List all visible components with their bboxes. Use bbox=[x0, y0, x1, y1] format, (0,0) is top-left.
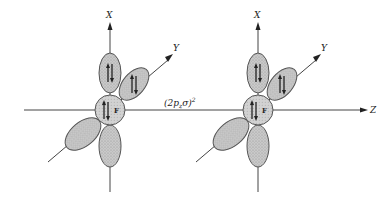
x-axis-label-left: X bbox=[105, 10, 113, 20]
arrow-diag-icon bbox=[165, 54, 173, 62]
atom-right: X Y F bbox=[196, 10, 328, 192]
atom-left: X Y F bbox=[48, 10, 180, 192]
bond-label-sup: 2 bbox=[191, 96, 196, 103]
arrow-diag-icon bbox=[313, 54, 321, 62]
bond-label: (2pzσ)2 bbox=[164, 96, 196, 109]
orbital-lobe-px-lower bbox=[247, 125, 269, 167]
z-axis-label: Z bbox=[369, 105, 377, 115]
arrow-up-icon bbox=[256, 22, 261, 30]
z-axis: Z bbox=[24, 105, 377, 115]
svg-text:(2pzσ)2: (2pzσ)2 bbox=[164, 96, 196, 109]
atom-label-left: F bbox=[114, 106, 119, 115]
orbital-core bbox=[95, 95, 125, 125]
bond-label-sigma: σ) bbox=[182, 98, 192, 108]
orbital-lobe-px-upper bbox=[99, 53, 121, 93]
y-axis-label-right: Y bbox=[321, 43, 328, 53]
atom-label-right: F bbox=[262, 106, 267, 115]
arrow-up-icon bbox=[108, 22, 113, 30]
y-axis-label-left: Y bbox=[173, 43, 180, 53]
orbital-lobe-px-lower bbox=[99, 125, 121, 167]
arrow-right-icon bbox=[360, 108, 368, 113]
orbital-lobe-px-upper bbox=[247, 53, 269, 93]
orbital-core bbox=[243, 95, 273, 125]
f2-orbital-diagram: Z (2pzσ)2 X Y bbox=[0, 0, 390, 205]
bond-label-text: (2p bbox=[164, 98, 179, 108]
x-axis-label-right: X bbox=[253, 10, 261, 20]
